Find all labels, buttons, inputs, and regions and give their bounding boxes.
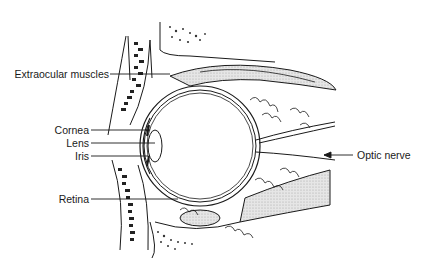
label-extraocular-muscles: Extraocular muscles — [0, 68, 109, 80]
bone-texture-upper — [169, 26, 206, 43]
inferior-oblique-muscle — [180, 210, 220, 226]
label-iris: Iris — [0, 150, 89, 162]
label-lens: Lens — [0, 137, 89, 149]
lateral-orbital-wall-upper — [121, 42, 144, 111]
optic-nerve — [256, 122, 335, 160]
label-cornea: Cornea — [0, 124, 89, 136]
inferior-extraocular-muscle — [240, 170, 330, 222]
bone-texture-lower — [157, 231, 193, 250]
label-optic-nerve: Optic nerve — [357, 149, 411, 161]
label-retina: Retina — [0, 193, 89, 205]
lens — [148, 130, 162, 162]
